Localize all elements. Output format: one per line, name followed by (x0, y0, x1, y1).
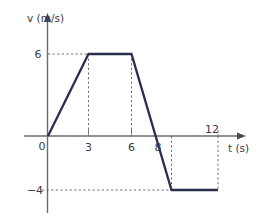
xtick-label-3: 3 (85, 141, 92, 154)
origin-label: 0 (39, 140, 46, 153)
xtick-label-8: 8 (155, 141, 162, 154)
velocity-time-figure: v (m/s) t (s) 0 6 −4 3 6 8 12 (0, 0, 262, 222)
x-axis-arrow (237, 132, 246, 139)
x-axis-label: t (s) (228, 142, 249, 154)
xtick-label-12: 12 (205, 123, 219, 136)
y-axis-label: v (m/s) (27, 12, 64, 24)
velocity-curve (48, 54, 218, 190)
xtick-label-6: 6 (128, 141, 135, 154)
velocity-time-chart: v (m/s) t (s) 0 6 −4 3 6 8 12 (0, 0, 262, 222)
ytick-label-minus4: −4 (27, 184, 43, 197)
ytick-label-6: 6 (35, 48, 42, 61)
